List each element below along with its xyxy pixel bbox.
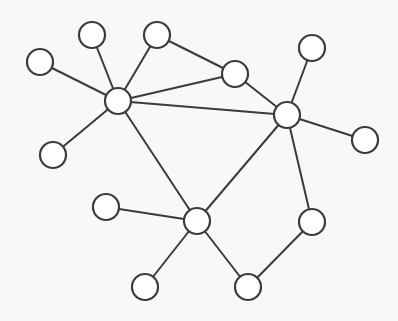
edge-H2-H3: [197, 115, 287, 221]
node-F: [299, 35, 325, 61]
edge-H2-K: [287, 115, 312, 222]
edges-layer: [40, 35, 365, 287]
node-L: [235, 274, 261, 300]
edge-H1-E: [118, 74, 235, 101]
node-D: [40, 142, 66, 168]
edge-H1-H2: [118, 101, 287, 115]
node-B: [79, 22, 105, 48]
node-I: [93, 194, 119, 220]
node-C: [144, 22, 170, 48]
node-H3: [184, 208, 210, 234]
nodes-layer: [27, 22, 378, 300]
network-graph: [0, 0, 398, 321]
node-J: [132, 274, 158, 300]
node-A: [27, 49, 53, 75]
node-G: [352, 127, 378, 153]
node-E: [222, 61, 248, 87]
edge-H1-H3: [118, 101, 197, 221]
node-H2: [274, 102, 300, 128]
node-K: [299, 209, 325, 235]
node-H1: [105, 88, 131, 114]
